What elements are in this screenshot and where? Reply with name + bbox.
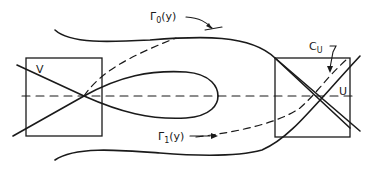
gamma1-label: Γ1(y) — [158, 130, 184, 145]
phase-diagram: Γ0(y) Γ1(y) CU V U — [0, 0, 372, 169]
gamma0-tick — [205, 27, 222, 30]
v-stable-manifold — [17, 65, 84, 96]
dashed-gamma0 — [84, 38, 176, 96]
cu-leader — [330, 46, 336, 68]
loop-lower — [84, 96, 218, 118]
v-unstable-manifold — [13, 96, 84, 136]
gamma0-label: Γ0(y) — [150, 10, 176, 25]
diagram-canvas: Γ0(y) Γ1(y) CU V U — [0, 0, 372, 169]
cu-label: CU — [309, 40, 323, 55]
gamma0-curve — [55, 30, 350, 128]
gamma1-curve — [55, 56, 360, 160]
u-label: U — [339, 85, 347, 98]
cu-arrow-icon — [327, 66, 333, 73]
gamma1-arrow-icon — [211, 133, 218, 139]
v-label: V — [36, 63, 44, 76]
